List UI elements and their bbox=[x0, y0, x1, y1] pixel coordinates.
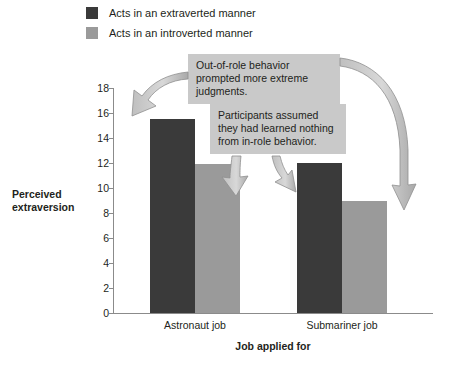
legend-swatch-extraverted bbox=[86, 7, 98, 19]
y-tick-label-2: 2 bbox=[103, 282, 109, 294]
legend-swatch-introverted bbox=[86, 27, 98, 39]
bar-submariner-introverted bbox=[342, 201, 387, 314]
bar-astronaut-extraverted bbox=[150, 119, 195, 313]
annotation-callout-out-of-role: Out-of-role behavior prompted more extre… bbox=[188, 54, 340, 104]
y-axis-title-line-2: extraversion bbox=[12, 201, 94, 214]
y-tick-label-8: 8 bbox=[103, 207, 109, 219]
x-axis-title: Job applied for bbox=[235, 340, 310, 352]
legend-label-extraverted: Acts in an extraverted manner bbox=[109, 7, 256, 19]
y-axis-line bbox=[113, 88, 114, 313]
y-tick-label-10: 10 bbox=[97, 182, 109, 194]
legend-item-extraverted: Acts in an extraverted manner bbox=[86, 4, 346, 22]
chart-legend: Acts in an extraverted manner Acts in an… bbox=[86, 4, 346, 44]
bar-chart-figure: Acts in an extraverted manner Acts in an… bbox=[0, 0, 466, 374]
y-tick-label-4: 4 bbox=[103, 257, 109, 269]
annotation-callout-in-role: Participants assumed they had learned no… bbox=[210, 104, 346, 154]
y-tick-label-16: 16 bbox=[97, 107, 109, 119]
bar-submariner-extraverted bbox=[297, 163, 342, 313]
x-category-label-submariner: Submariner job bbox=[306, 319, 377, 331]
y-axis-title-line-1: Perceived bbox=[12, 188, 94, 201]
x-axis-line bbox=[113, 313, 433, 314]
x-category-label-astronaut: Astronaut job bbox=[164, 319, 226, 331]
y-tick-label-18: 18 bbox=[97, 82, 109, 94]
legend-item-introverted: Acts in an introverted manner bbox=[86, 24, 346, 42]
y-axis-title: Perceived extraversion bbox=[12, 188, 94, 214]
y-tick-label-12: 12 bbox=[97, 157, 109, 169]
y-tick-label-6: 6 bbox=[103, 232, 109, 244]
bar-astronaut-introverted bbox=[195, 164, 240, 313]
legend-label-introverted: Acts in an introverted manner bbox=[109, 27, 253, 39]
y-tick-label-14: 14 bbox=[97, 132, 109, 144]
y-tick-label-0: 0 bbox=[103, 307, 109, 319]
